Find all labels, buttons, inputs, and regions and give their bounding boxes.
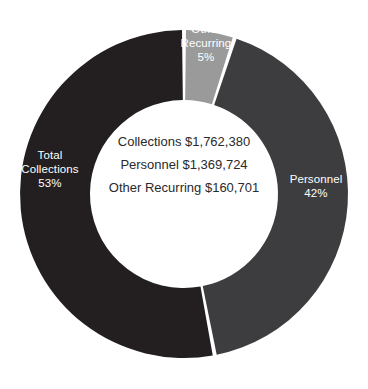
center-summary: Collections $1,762,380 Personnel $1,369,… — [92, 134, 276, 195]
summary-line-other-recurring: Other Recurring $160,701 — [92, 180, 276, 195]
summary-line-personnel: Personnel $1,369,724 — [92, 157, 276, 172]
donut-chart: Total Collections 53% Personnel 42% Othe… — [0, 0, 368, 389]
summary-line-collections: Collections $1,762,380 — [92, 134, 276, 149]
donut-slice-personnel — [203, 39, 348, 355]
